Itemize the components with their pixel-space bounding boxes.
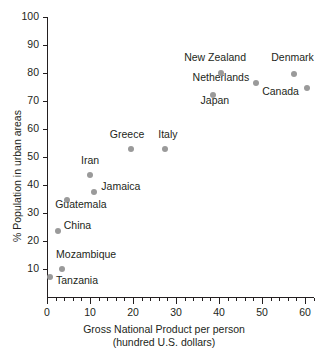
- x-tick-minor: [193, 298, 194, 301]
- y-tick: [43, 129, 48, 130]
- point-label: Tanzania: [56, 275, 98, 286]
- y-tick: [43, 241, 48, 242]
- x-axis-subtitle: (hundred U.S. dollars): [0, 336, 328, 348]
- x-tick-minor: [150, 298, 151, 301]
- x-tick-label: 20: [120, 307, 146, 318]
- y-tick: [43, 45, 48, 46]
- x-tick-major: [133, 298, 134, 304]
- x-tick-major: [47, 298, 48, 304]
- data-point[interactable]: [128, 146, 134, 152]
- y-tick: [43, 73, 48, 74]
- x-tick-minor: [167, 298, 168, 301]
- y-tick: [43, 17, 48, 18]
- y-axis-title: % Population in urban areas: [11, 110, 23, 242]
- x-tick-minor: [202, 298, 203, 301]
- x-tick-minor: [314, 298, 315, 301]
- x-tick-minor: [210, 298, 211, 301]
- data-point[interactable]: [55, 228, 61, 234]
- x-tick-label: 40: [206, 307, 232, 318]
- data-point[interactable]: [162, 146, 168, 152]
- data-point[interactable]: [87, 172, 93, 178]
- x-tick-label: 0: [34, 307, 60, 318]
- data-point[interactable]: [59, 266, 65, 272]
- y-tick-label: 80: [13, 67, 39, 78]
- scatter-chart: 1020304050607080901000102030405060Tanzan…: [0, 0, 328, 353]
- y-tick-label: 90: [13, 39, 39, 50]
- x-tick-minor: [185, 298, 186, 301]
- point-label: Iran: [81, 155, 99, 166]
- point-label: Japan: [201, 95, 230, 106]
- x-tick-label: 30: [163, 307, 189, 318]
- x-tick-major: [219, 298, 220, 304]
- x-tick-major: [305, 298, 306, 304]
- point-label: Italy: [158, 129, 177, 140]
- x-tick-minor: [159, 298, 160, 301]
- x-tick-minor: [271, 298, 272, 301]
- data-point[interactable]: [291, 71, 297, 77]
- x-tick-minor: [288, 298, 289, 301]
- y-tick: [43, 101, 48, 102]
- x-tick-major: [262, 298, 263, 304]
- point-label: Guatemala: [55, 199, 106, 210]
- y-tick: [43, 185, 48, 186]
- x-tick-minor: [142, 298, 143, 301]
- y-tick-label: 70: [13, 95, 39, 106]
- point-label: Greece: [110, 129, 144, 140]
- y-tick-label: 10: [13, 263, 39, 274]
- point-label: China: [64, 220, 91, 231]
- x-tick-minor: [124, 298, 125, 301]
- data-point[interactable]: [47, 274, 53, 280]
- x-tick-major: [90, 298, 91, 304]
- x-tick-minor: [107, 298, 108, 301]
- x-tick-minor: [279, 298, 280, 301]
- plot-area: 1020304050607080901000102030405060Tanzan…: [0, 0, 328, 353]
- point-label: Mozambique: [56, 249, 116, 260]
- x-tick-minor: [236, 298, 237, 301]
- data-point[interactable]: [304, 85, 310, 91]
- x-tick-label: 50: [249, 307, 275, 318]
- x-tick-minor: [99, 298, 100, 301]
- x-tick-minor: [56, 298, 57, 301]
- x-axis-line: [47, 297, 314, 298]
- point-label: Canada: [262, 86, 299, 97]
- data-point[interactable]: [253, 80, 259, 86]
- data-point[interactable]: [91, 189, 97, 195]
- x-tick-minor: [245, 298, 246, 301]
- y-tick: [43, 269, 48, 270]
- x-axis-title: Gross National Product per person: [0, 323, 328, 335]
- x-tick-minor: [116, 298, 117, 301]
- y-tick: [43, 157, 48, 158]
- x-tick-minor: [81, 298, 82, 301]
- x-tick-minor: [296, 298, 297, 301]
- x-tick-minor: [64, 298, 65, 301]
- point-label: Denmark: [271, 52, 314, 63]
- x-tick-major: [176, 298, 177, 304]
- y-tick: [43, 213, 48, 214]
- x-tick-label: 60: [292, 307, 318, 318]
- x-tick-minor: [73, 298, 74, 301]
- x-tick-minor: [228, 298, 229, 301]
- x-tick-minor: [253, 298, 254, 301]
- point-label: New Zealand: [184, 52, 246, 63]
- x-tick-label: 10: [77, 307, 103, 318]
- y-tick-label: 100: [13, 11, 39, 22]
- point-label: Jamaica: [101, 181, 140, 192]
